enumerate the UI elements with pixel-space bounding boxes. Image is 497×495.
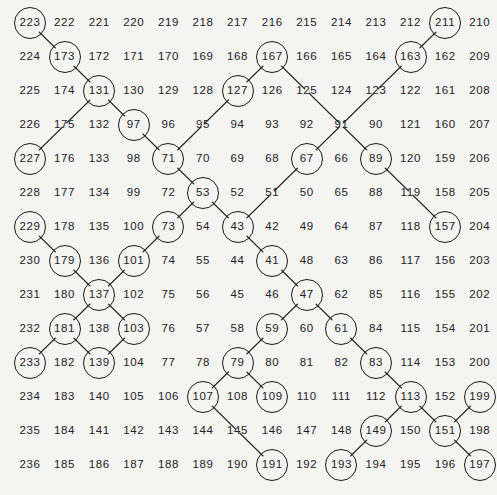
cell-value: 213: [366, 17, 387, 29]
number-cell: 133: [82, 143, 116, 175]
cell-value: 173: [54, 51, 75, 63]
number-cell: 217: [221, 7, 255, 39]
number-cell: 236: [13, 449, 47, 481]
cell-value: 179: [54, 255, 75, 267]
number-cell: 117: [394, 245, 428, 277]
number-cell: 182: [48, 347, 82, 379]
cell-value: 119: [401, 187, 421, 199]
cell-value: 132: [89, 119, 110, 131]
cell-value: 144: [193, 425, 214, 437]
cell-value: 202: [469, 289, 490, 301]
cell-value: 227: [20, 153, 41, 165]
cell-value: 233: [20, 357, 41, 369]
number-cell: 44: [221, 245, 255, 277]
number-cell: 129: [151, 75, 185, 107]
cell-value: 205: [469, 187, 490, 199]
prime-cell: 139: [82, 347, 116, 379]
cell-value: 210: [469, 17, 490, 29]
cell-value: 196: [435, 459, 456, 471]
cell-value: 223: [20, 17, 41, 29]
prime-cell: 193: [324, 449, 358, 481]
number-cell: 170: [151, 41, 185, 73]
number-cell: 125: [290, 75, 324, 107]
cell-value: 199: [469, 391, 490, 403]
cell-value: 117: [401, 255, 421, 267]
prime-cell: 47: [290, 279, 324, 311]
number-cell: 54: [186, 211, 220, 243]
number-cell: 156: [428, 245, 462, 277]
prime-cell: 149: [359, 415, 393, 447]
cell-value: 208: [469, 85, 490, 97]
number-cell: 225: [13, 75, 47, 107]
cell-value: 85: [369, 289, 383, 301]
number-cell: 205: [463, 177, 497, 209]
cell-value: 214: [331, 17, 352, 29]
number-cell: 112: [359, 381, 393, 413]
cell-value: 159: [435, 153, 456, 165]
cell-value: 62: [334, 289, 348, 301]
cell-value: 235: [20, 425, 41, 437]
cell-value: 198: [469, 425, 490, 437]
cell-value: 43: [231, 221, 245, 233]
number-cell: 144: [186, 415, 220, 447]
number-cell: 153: [428, 347, 462, 379]
cell-value: 107: [193, 391, 214, 403]
cell-value: 193: [331, 459, 352, 471]
number-cell: 116: [394, 279, 428, 311]
cell-value: 206: [469, 153, 490, 165]
number-cell: 69: [221, 143, 255, 175]
number-cell: 159: [428, 143, 462, 175]
cell-value: 171: [123, 51, 144, 63]
number-cell: 106: [151, 381, 185, 413]
number-cell: 189: [186, 449, 220, 481]
number-cell: 72: [151, 177, 185, 209]
cell-value: 168: [227, 51, 248, 63]
cell-value: 187: [123, 459, 144, 471]
cell-value: 215: [296, 17, 317, 29]
cell-value: 130: [123, 85, 144, 97]
number-cell: 84: [359, 313, 393, 345]
cell-value: 188: [158, 459, 179, 471]
number-cell: 213: [359, 7, 393, 39]
number-cell: 195: [394, 449, 428, 481]
number-cell: 50: [290, 177, 324, 209]
prime-cell: 43: [221, 211, 255, 243]
cell-value: 149: [366, 425, 387, 437]
number-cell: 102: [117, 279, 151, 311]
cell-value: 138: [89, 323, 110, 335]
cell-value: 165: [331, 51, 352, 63]
number-cell: 124: [324, 75, 358, 107]
number-cell: 48: [290, 245, 324, 277]
cell-value: 155: [435, 289, 456, 301]
cell-value: 156: [435, 255, 456, 267]
number-cell: 146: [255, 415, 289, 447]
number-cell: 155: [428, 279, 462, 311]
cell-value: 78: [196, 357, 210, 369]
number-cell: 226: [13, 109, 47, 141]
cell-value: 177: [54, 187, 75, 199]
cell-value: 175: [54, 119, 75, 131]
cell-value: 127: [227, 85, 248, 97]
cell-value: 63: [334, 255, 348, 267]
cell-value: 151: [435, 425, 456, 437]
prime-cell: 73: [151, 211, 185, 243]
prime-cell: 101: [117, 245, 151, 277]
number-cell: 194: [359, 449, 393, 481]
cell-value: 191: [262, 459, 283, 471]
cell-value: 103: [123, 323, 144, 335]
cell-value: 90: [369, 119, 383, 131]
cell-value: 41: [265, 255, 279, 267]
cell-value: 150: [400, 425, 421, 437]
number-cell: 228: [13, 177, 47, 209]
cell-value: 129: [158, 85, 179, 97]
prime-cell: 137: [82, 279, 116, 311]
cell-value: 142: [123, 425, 144, 437]
prime-cell: 113: [394, 381, 428, 413]
cell-value: 88: [369, 187, 383, 199]
cell-value: 195: [400, 459, 421, 471]
cell-value: 164: [366, 51, 387, 63]
number-cell: 219: [151, 7, 185, 39]
number-cell: 90: [359, 109, 393, 141]
prime-cell: 71: [151, 143, 185, 175]
